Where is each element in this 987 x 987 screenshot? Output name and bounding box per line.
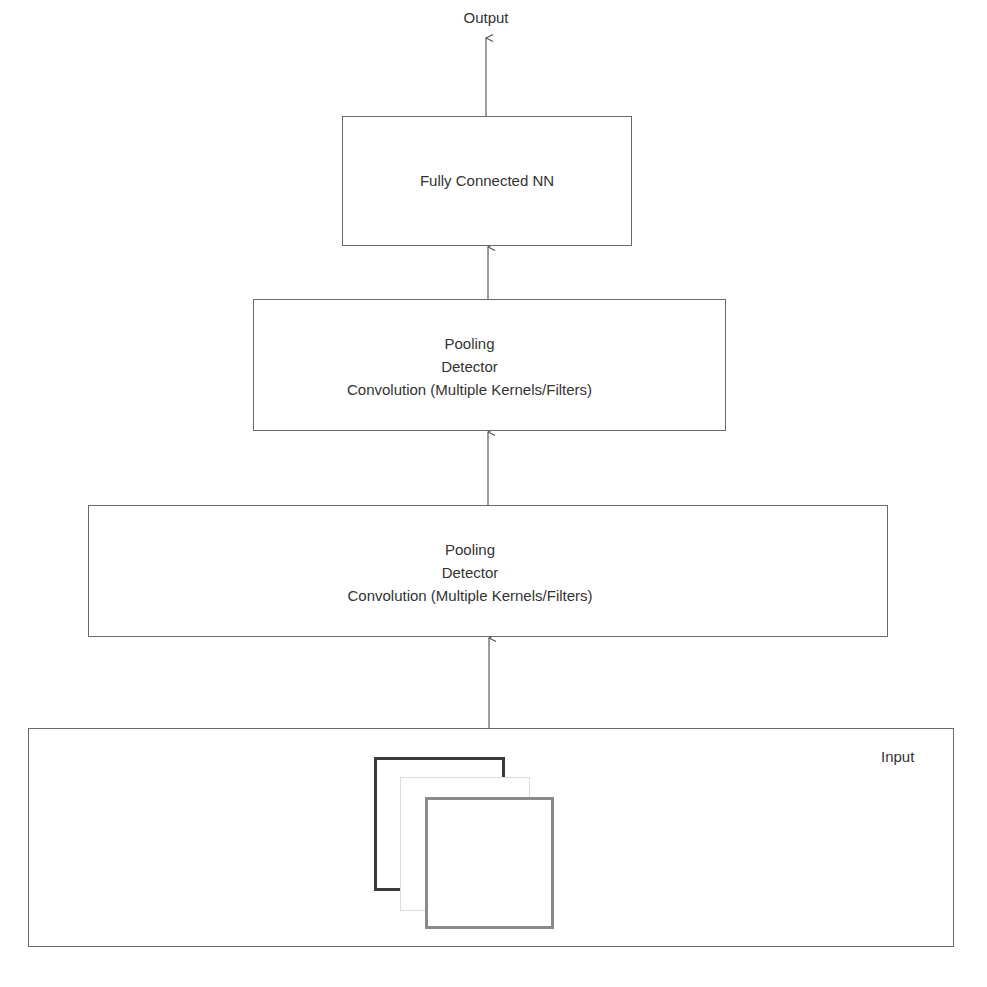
- fully-connected-label: Fully Connected NN: [343, 169, 631, 192]
- input-label: Input: [881, 745, 914, 768]
- conv-layer-2-text: Pooling Detector Convolution (Multiple K…: [254, 332, 725, 401]
- conv-layer-2-pooling: Pooling: [254, 332, 685, 355]
- conv-layer-1-convolution: Convolution (Multiple Kernels/Filters): [89, 584, 851, 607]
- output-label: Output: [446, 6, 526, 29]
- conv-layer-2-box: Pooling Detector Convolution (Multiple K…: [253, 299, 726, 431]
- fully-connected-box: Fully Connected NN: [342, 116, 632, 246]
- conv-layer-1-text: Pooling Detector Convolution (Multiple K…: [89, 538, 887, 607]
- conv-layer-1-pooling: Pooling: [89, 538, 851, 561]
- conv-layer-1-box: Pooling Detector Convolution (Multiple K…: [88, 505, 888, 637]
- conv-layer-1-detector: Detector: [89, 561, 851, 584]
- conv-layer-2-convolution: Convolution (Multiple Kernels/Filters): [254, 378, 685, 401]
- conv-layer-2-detector: Detector: [254, 355, 685, 378]
- input-channel-3: [425, 797, 554, 929]
